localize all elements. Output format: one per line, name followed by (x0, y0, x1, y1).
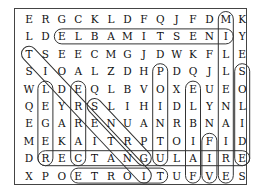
grid-cell[interactable]: E (234, 46, 250, 62)
grid-cell[interactable]: E (21, 115, 37, 131)
grid-cell[interactable]: B (185, 115, 201, 131)
grid-cell[interactable]: U (119, 115, 135, 131)
grid-cell[interactable]: I (87, 133, 103, 149)
grid-cell[interactable]: E (218, 81, 234, 97)
grid-cell[interactable]: O (234, 81, 250, 97)
grid-cell[interactable]: W (169, 46, 185, 62)
grid-cell[interactable]: L (70, 28, 86, 44)
grid-cell[interactable]: C (70, 11, 86, 27)
grid-cell[interactable]: A (136, 115, 152, 131)
grid-cell[interactable]: I (136, 168, 152, 184)
grid-cell[interactable]: L (21, 28, 37, 44)
grid-cell[interactable]: N (201, 28, 217, 44)
grid-cell[interactable]: D (152, 46, 168, 62)
grid-cell[interactable]: G (136, 150, 152, 166)
grid-cell[interactable]: D (234, 133, 250, 149)
grid-cell[interactable]: T (87, 150, 103, 166)
grid-cell[interactable]: L (169, 150, 185, 166)
grid-cell[interactable]: A (185, 150, 201, 166)
grid-cell[interactable]: R (70, 115, 86, 131)
grid-cell[interactable]: U (201, 81, 217, 97)
grid-cell[interactable]: E (70, 168, 86, 184)
grid-cell[interactable]: T (152, 133, 168, 149)
grid-cell[interactable]: F (185, 11, 201, 27)
grid-cell[interactable]: E (37, 133, 53, 149)
grid-cell[interactable]: B (119, 81, 135, 97)
grid-cell[interactable]: E (54, 150, 70, 166)
grid-cell[interactable]: M (103, 46, 119, 62)
grid-cell[interactable]: P (37, 168, 53, 184)
grid-cell[interactable]: E (218, 168, 234, 184)
grid-cell[interactable]: E (185, 81, 201, 97)
grid-cell[interactable]: E (37, 98, 53, 114)
grid-cell[interactable]: Y (234, 28, 250, 44)
grid-cell[interactable]: F (201, 133, 217, 149)
grid-cell[interactable]: N (119, 150, 135, 166)
grid-cell[interactable]: R (37, 150, 53, 166)
grid-cell[interactable]: S (87, 98, 103, 114)
grid-cell[interactable]: L (103, 11, 119, 27)
grid-cell[interactable]: L (37, 81, 53, 97)
grid-cell[interactable]: N (152, 115, 168, 131)
grid-cell[interactable]: L (103, 98, 119, 114)
grid-cell[interactable]: R (70, 98, 86, 114)
grid-cell[interactable]: C (70, 150, 86, 166)
grid-cell[interactable]: M (21, 133, 37, 149)
grid-cell[interactable]: I (119, 98, 135, 114)
grid-cell[interactable]: T (152, 28, 168, 44)
grid-cell[interactable]: Q (21, 98, 37, 114)
grid-cell[interactable]: E (70, 81, 86, 97)
grid-cell[interactable]: Z (103, 63, 119, 79)
grid-cell[interactable]: C (87, 46, 103, 62)
grid-cell[interactable]: R (119, 133, 135, 149)
grid-cell[interactable]: S (21, 63, 37, 79)
grid-cell[interactable]: I (218, 133, 234, 149)
grid-cell[interactable]: L (218, 63, 234, 79)
grid-cell[interactable]: H (136, 63, 152, 79)
grid-cell[interactable]: T (152, 168, 168, 184)
grid-cell[interactable]: G (119, 46, 135, 62)
grid-cell[interactable]: R (37, 11, 53, 27)
grid-cell[interactable]: E (54, 28, 70, 44)
grid-cell[interactable]: I (136, 28, 152, 44)
grid-cell[interactable]: B (87, 28, 103, 44)
grid-cell[interactable]: W (21, 81, 37, 97)
grid-cell[interactable]: A (70, 63, 86, 79)
grid-cell[interactable]: P (136, 133, 152, 149)
grid-cell[interactable]: X (21, 168, 37, 184)
grid-cell[interactable]: Q (152, 11, 168, 27)
grid-cell[interactable]: N (218, 98, 234, 114)
grid-cell[interactable]: K (185, 46, 201, 62)
grid-cell[interactable]: R (218, 150, 234, 166)
grid-cell[interactable]: A (54, 115, 70, 131)
grid-cell[interactable]: L (185, 98, 201, 114)
grid-cell[interactable]: S (234, 63, 250, 79)
grid-cell[interactable]: O (119, 168, 135, 184)
grid-cell[interactable]: L (103, 81, 119, 97)
grid-cell[interactable]: Y (54, 98, 70, 114)
grid-cell[interactable]: K (234, 11, 250, 27)
grid-cell[interactable]: Q (185, 63, 201, 79)
grid-cell[interactable]: X (169, 81, 185, 97)
grid-cell[interactable]: T (103, 133, 119, 149)
grid-cell[interactable]: D (37, 28, 53, 44)
grid-cell[interactable]: H (136, 98, 152, 114)
grid-cell[interactable]: I (234, 115, 250, 131)
grid-cell[interactable]: V (201, 168, 217, 184)
grid-cell[interactable]: P (152, 63, 168, 79)
grid-cell[interactable]: D (21, 150, 37, 166)
grid-cell[interactable]: O (169, 133, 185, 149)
grid-cell[interactable]: A (103, 150, 119, 166)
grid-cell[interactable]: I (152, 98, 168, 114)
grid-cell[interactable]: M (119, 28, 135, 44)
grid-cell[interactable]: A (70, 133, 86, 149)
grid-cell[interactable]: T (21, 46, 37, 62)
grid-cell[interactable]: E (185, 28, 201, 44)
grid-cell[interactable]: A (103, 28, 119, 44)
grid-cell[interactable]: V (136, 81, 152, 97)
grid-cell[interactable]: G (54, 11, 70, 27)
grid-cell[interactable]: N (103, 115, 119, 131)
grid-cell[interactable]: D (169, 63, 185, 79)
grid-cell[interactable]: D (201, 11, 217, 27)
grid-cell[interactable]: U (169, 168, 185, 184)
